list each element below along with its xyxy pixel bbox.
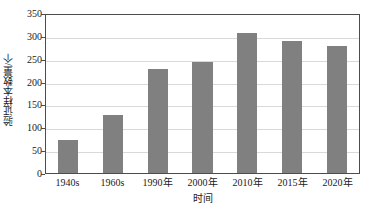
axis-tick-mark xyxy=(41,151,45,152)
x-axis-title: 时间 xyxy=(45,194,360,204)
axis-tick-mark xyxy=(41,37,45,38)
bar-slot xyxy=(314,15,359,173)
y-axis-tick-label: 300 xyxy=(27,32,42,42)
x-axis-tick-labels: 1940s1960s1990年2000年2010年2015年2020年 xyxy=(45,178,360,188)
bar[interactable] xyxy=(148,69,168,173)
y-axis-tick-label: 250 xyxy=(27,55,42,65)
axis-tick-mark xyxy=(41,83,45,84)
axis-tick-mark xyxy=(41,105,45,106)
bar-slot xyxy=(135,15,180,173)
bar-slot xyxy=(91,15,136,173)
y-axis-tick-label: 350 xyxy=(27,9,42,19)
bar-slot xyxy=(225,15,270,173)
bars-layer xyxy=(46,15,359,173)
axis-tick-mark xyxy=(41,128,45,129)
bar[interactable] xyxy=(237,33,257,173)
x-axis-tick-label: 2010年 xyxy=(225,178,270,188)
bar-slot xyxy=(46,15,91,173)
bar-slot xyxy=(180,15,225,173)
y-axis-tick-label: 100 xyxy=(27,123,42,133)
bar-chart-figure: 验证样本数量/个 050100150200250300350 1940s1960… xyxy=(0,0,368,218)
bar[interactable] xyxy=(103,115,123,174)
bar[interactable] xyxy=(58,140,78,173)
bar-slot xyxy=(270,15,315,173)
bar[interactable] xyxy=(327,46,347,173)
x-axis-tick-label: 1990年 xyxy=(135,178,180,188)
bar[interactable] xyxy=(192,62,212,173)
axis-tick-mark xyxy=(41,60,45,61)
y-axis-tick-label: 200 xyxy=(27,78,42,88)
bar[interactable] xyxy=(282,41,302,173)
x-axis-tick-label: 2020年 xyxy=(315,178,360,188)
y-axis-tick-label: 150 xyxy=(27,100,42,110)
axis-tick-mark xyxy=(41,174,45,175)
x-axis-tick-label: 1960s xyxy=(90,178,135,188)
y-axis-tick-labels: 050100150200250300350 xyxy=(16,14,42,174)
x-axis-tick-label: 2000年 xyxy=(180,178,225,188)
y-axis-title-label: 验证样本数量/个 xyxy=(4,53,14,126)
plot-area xyxy=(45,14,360,174)
axis-tick-mark xyxy=(41,14,45,15)
x-axis-tick-label: 1940s xyxy=(45,178,90,188)
x-axis-tick-label: 2015年 xyxy=(270,178,315,188)
